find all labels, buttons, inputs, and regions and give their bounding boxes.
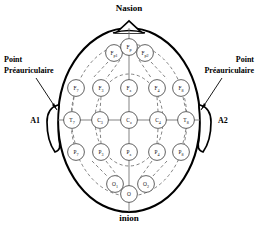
- electrode-pz[interactable]: Pz: [121, 144, 138, 161]
- electrode-cz[interactable]: Cz: [121, 112, 138, 129]
- electrode-c4[interactable]: C4: [150, 112, 167, 129]
- head-map-canvas: Fp1FpFp2F7F3FzF4F8T7C3CzC4T8P7P3PzP4P8O1…: [0, 0, 258, 225]
- right-preauricular-label-line2: Préauriculaire: [204, 66, 254, 75]
- electrode-oz[interactable]: O: [121, 186, 138, 203]
- electrode-o1[interactable]: O1: [107, 176, 124, 193]
- electrode-f7[interactable]: F7: [68, 80, 85, 97]
- electrode-p8[interactable]: P8: [173, 144, 190, 161]
- electrode-p7[interactable]: P7: [68, 144, 85, 161]
- inion-label: inion: [119, 213, 139, 223]
- electrode-o2[interactable]: O2: [138, 176, 155, 193]
- eeg-electrode-diagram: Fp1FpFp2F7F3FzF4F8T7C3CzC4T8P7P3PzP4P8O1…: [0, 0, 258, 225]
- electrode-f4[interactable]: F4: [149, 80, 166, 97]
- electrode-t7[interactable]: T7: [64, 112, 81, 129]
- electrode-p3[interactable]: P3: [93, 144, 110, 161]
- electrode-f8[interactable]: F8: [173, 80, 190, 97]
- electrode-label: O: [127, 191, 131, 197]
- electrode-f3[interactable]: F3: [93, 80, 110, 97]
- electrode-fp[interactable]: Fp: [121, 39, 138, 56]
- left-ear-shape: [47, 105, 60, 152]
- electrode-t8[interactable]: T8: [178, 112, 195, 129]
- right-ear-shape: [198, 105, 211, 152]
- right-preauricular-label-line1: Point: [236, 55, 255, 64]
- electrode-c3[interactable]: C3: [92, 112, 109, 129]
- electrode-fp2[interactable]: Fp2: [137, 45, 154, 62]
- electrode-p4[interactable]: P4: [149, 144, 166, 161]
- left-preauricular-label-line2: Préauriculaire: [4, 66, 54, 75]
- left-preauricular-label-line1: Point: [4, 55, 23, 64]
- electrode-fp1[interactable]: Fp1: [106, 45, 123, 62]
- nasion-label: Nasion: [116, 3, 143, 13]
- a2-reference-label: A2: [218, 116, 228, 125]
- electrode-fz[interactable]: Fz: [121, 80, 138, 97]
- a1-reference-label: A1: [30, 116, 40, 125]
